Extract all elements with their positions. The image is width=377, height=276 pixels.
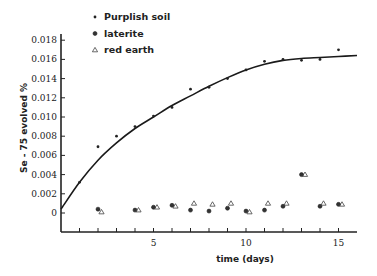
fit-curve-line [61,56,357,210]
legend-label: red earth [104,44,154,55]
laterite-marker [226,206,230,210]
purplish-soil-marker [245,69,248,72]
red-earth-marker [92,47,97,51]
y-tick-label: 0 [51,208,57,218]
y-tick-label: 0.002 [31,189,57,199]
purplish-soil-marker [152,115,155,118]
chart: 00.0020.0040.0060.0080.0100.0120.0140.01… [0,0,377,276]
legend: Purplish soillateritered earth [92,11,170,55]
x-axis-title: time (days) [216,254,274,264]
laterite-marker [93,32,97,36]
purplish-soil-marker [189,88,192,91]
purplish-soil-marker [319,58,322,61]
laterite-marker [189,208,193,212]
y-tick-label: 0.006 [31,150,57,160]
purplish-soil-marker [337,48,340,51]
purplish-soil-marker [226,77,229,80]
x-tick-label: 10 [240,238,252,248]
purplish-soil-marker [282,58,285,61]
purplish-soil-marker [78,181,81,184]
purplish-soil-marker [97,145,100,148]
fit-curve [61,56,357,210]
y-tick-label: 0.010 [31,112,57,122]
purplish-soil-marker [300,59,303,62]
purplish-soil-marker [171,106,174,109]
legend-label: Purplish soil [104,11,170,22]
laterite-marker [207,209,211,213]
purplish-soil-marker [115,135,118,138]
y-tick-label: 0.014 [31,74,57,84]
y-tick-label: 0.004 [31,170,57,180]
purplish-soil-marker [263,60,266,63]
y-tick-label: 0.016 [31,54,57,64]
red-earth-marker [210,202,215,206]
red-earth-marker [284,201,289,205]
x-tick-label: 5 [151,238,157,248]
y-axis-title: Se - 75 evolved % [19,83,29,173]
laterite-marker [96,207,100,211]
y-tick-label: 0.008 [31,131,57,141]
x-tick-label: 15 [333,238,345,248]
red-earth-marker [228,201,233,205]
purplish-soil-marker [94,16,97,19]
axes [61,34,357,232]
y-tick-label: 0.018 [31,35,57,45]
red-earth-marker [321,201,326,205]
axis-ticks: 00.0020.0040.0060.0080.0100.0120.0140.01… [31,35,344,248]
data-points [78,48,345,213]
purplish-soil-marker [208,86,211,89]
y-tick-label: 0.012 [31,93,57,103]
laterite-marker [263,208,267,212]
red-earth-marker [191,201,196,205]
legend-label: laterite [104,28,144,39]
purplish-soil-marker [134,125,137,128]
red-earth-marker [265,201,270,205]
